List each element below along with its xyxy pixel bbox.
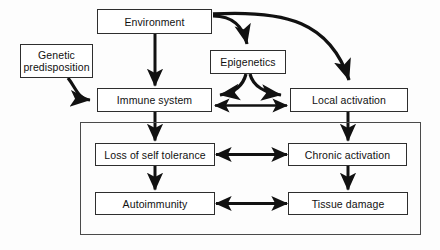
edge-epigenetics-to-local-activation xyxy=(250,74,281,95)
disease-process-group xyxy=(80,122,421,235)
node-tissue-damage-label: Tissue damage xyxy=(312,198,385,210)
edge-epigenetics-to-immune-system xyxy=(220,74,246,95)
edge-genetic-predisposition-to-immune-system xyxy=(68,78,90,100)
node-genetic-predisposition-label: Genetic predisposition xyxy=(23,49,89,73)
node-loss-of-self-tolerance[interactable]: Loss of self tolerance xyxy=(95,143,215,166)
node-environment[interactable]: Environment xyxy=(97,9,212,34)
node-immune-system[interactable]: Immune system xyxy=(97,88,212,112)
node-environment-label: Environment xyxy=(124,16,184,28)
node-epigenetics-label: Epigenetics xyxy=(220,56,275,68)
node-loss-of-self-tolerance-label: Loss of self tolerance xyxy=(104,149,205,161)
node-genetic-predisposition[interactable]: Genetic predisposition xyxy=(20,44,93,78)
node-local-activation[interactable]: Local activation xyxy=(290,88,408,112)
edge-environment-to-epigenetics xyxy=(213,16,247,44)
node-immune-system-label: Immune system xyxy=(117,94,192,106)
node-autoimmunity-label: Autoimmunity xyxy=(123,198,188,210)
node-autoimmunity[interactable]: Autoimmunity xyxy=(95,192,215,215)
node-epigenetics[interactable]: Epigenetics xyxy=(210,50,286,74)
node-tissue-damage[interactable]: Tissue damage xyxy=(288,192,408,215)
node-chronic-activation-label: Chronic activation xyxy=(305,149,390,161)
node-local-activation-label: Local activation xyxy=(312,94,386,106)
node-chronic-activation[interactable]: Chronic activation xyxy=(288,143,407,166)
diagram-canvas: Environment Genetic predisposition Epige… xyxy=(0,0,440,250)
